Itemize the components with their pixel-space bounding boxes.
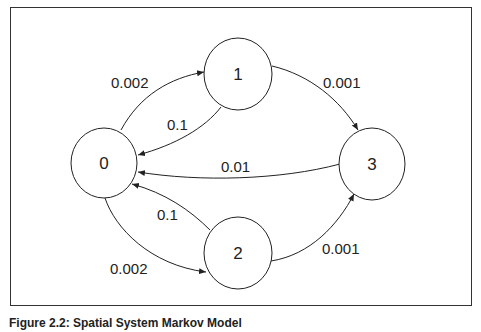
svg-text:1: 1 <box>233 65 242 84</box>
edge-label-1-0: 0.1 <box>167 116 188 133</box>
edge-label-0-2: 0.002 <box>110 260 148 277</box>
svg-text:2: 2 <box>233 244 242 263</box>
edge-label-1-3: 0.001 <box>323 74 361 91</box>
node-3: 3 <box>339 128 405 200</box>
markov-diagram: 0 1 2 3 0.002 0.1 0.001 0.01 0.1 0.002 0… <box>0 0 481 332</box>
figure-caption: Figure 2.2: Spatial System Markov Model <box>9 316 242 330</box>
node-1: 1 <box>204 38 272 110</box>
node-2: 2 <box>204 217 272 289</box>
edge-label-3-0: 0.01 <box>221 158 250 175</box>
svg-text:3: 3 <box>367 155 376 174</box>
edge-label-0-1: 0.002 <box>111 74 149 91</box>
svg-text:0: 0 <box>99 154 108 173</box>
edge-label-2-0: 0.1 <box>157 206 178 223</box>
node-0: 0 <box>71 128 137 198</box>
edge-label-2-3: 0.001 <box>322 240 360 257</box>
